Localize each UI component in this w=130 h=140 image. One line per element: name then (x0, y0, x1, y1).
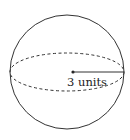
sphere-figure: 3 units (0, 0, 130, 140)
radius-label: 3 units (67, 75, 107, 89)
sphere-diagram: 3 units (0, 0, 130, 140)
